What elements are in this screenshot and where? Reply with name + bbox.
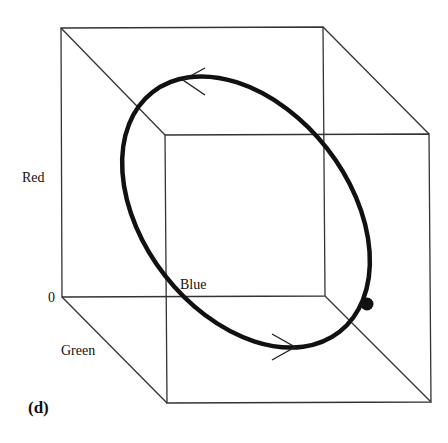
cube-edge-top-left [61,28,165,135]
green-axis-label: Green [61,344,95,358]
panel-label: (d) [28,399,49,416]
cube-back-face [61,27,325,297]
arrow-left-icon [183,68,205,95]
trajectory-point [361,298,374,311]
origin-label: 0 [48,291,55,305]
red-axis-label: Red [22,171,45,185]
cube-edge-top-right [323,27,429,134]
blue-axis-label: Blue [180,278,206,292]
cube-edge-bottom-right [325,296,431,402]
color-cube-diagram [0,0,448,443]
